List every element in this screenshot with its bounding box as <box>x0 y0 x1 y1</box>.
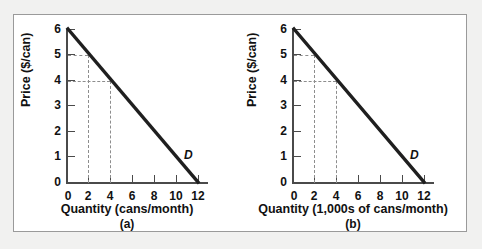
x-tick-label-2-b: 2 <box>311 190 318 202</box>
y-tick-label-6-b: 6 <box>280 23 287 35</box>
chart-panel-a: Price ($/can) 0 1 2 3 4 5 6 <box>14 15 240 231</box>
x-tick-label-0-b: 0 <box>291 190 298 202</box>
x-tick-label-8-a: 8 <box>151 190 158 202</box>
x-tick-label-10-a: 10 <box>169 190 182 202</box>
y-axis-title-a: Price ($/can) <box>20 33 33 107</box>
y-tick-label-1-a: 1 <box>54 150 61 162</box>
y-tick-label-2-a: 2 <box>54 125 61 137</box>
y-tick-label-0-a: 0 <box>54 176 61 188</box>
x-tick-label-6-a: 6 <box>129 190 136 202</box>
plot-area-a: 0 1 2 3 4 5 6 0 2 4 6 <box>66 29 208 184</box>
plot-area-b: 0 1 2 3 4 5 6 0 2 4 6 <box>292 29 434 184</box>
x-tick-label-0-a: 0 <box>65 190 72 202</box>
x-tick-label-2-a: 2 <box>85 190 92 202</box>
x-tick-label-8-b: 8 <box>377 190 384 202</box>
x-tick-label-6-b: 6 <box>355 190 362 202</box>
y-tick-label-3-a: 3 <box>54 99 61 111</box>
y-tick-label-0-b: 0 <box>280 176 287 188</box>
demand-curve-label-b: D <box>410 149 419 161</box>
chart-panel-b: Price ($/can) 0 1 2 3 4 5 6 0 <box>240 15 466 231</box>
figure-frame: Price ($/can) 0 1 2 3 4 5 6 <box>13 14 467 232</box>
x-tick-label-12-b: 12 <box>417 190 430 202</box>
y-tick-label-1-b: 1 <box>280 150 287 162</box>
y-tick-label-4-b: 4 <box>280 74 287 86</box>
x-tick-label-4-b: 4 <box>333 190 340 202</box>
panel-caption-b: (b) <box>240 218 466 230</box>
y-tick-label-5-a: 5 <box>54 48 61 60</box>
y-tick-label-4-a: 4 <box>54 74 61 86</box>
chart-panel-group: Price ($/can) 0 1 2 3 4 5 6 <box>14 15 466 231</box>
x-tick-label-4-a: 4 <box>107 190 114 202</box>
x-axis-title-a: Quantity (cans/month) <box>14 203 240 216</box>
y-tick-label-5-b: 5 <box>280 48 287 60</box>
x-tick-label-12-a: 12 <box>191 190 204 202</box>
x-axis-title-b: Quantity (1,000s of cans/month) <box>240 203 466 216</box>
demand-curve-label-a: D <box>184 149 193 161</box>
x-tick-label-10-b: 10 <box>395 190 408 202</box>
y-tick-label-3-b: 3 <box>280 99 287 111</box>
y-tick-label-2-b: 2 <box>280 125 287 137</box>
y-tick-label-6-a: 6 <box>54 23 61 35</box>
panel-caption-a: (a) <box>14 218 240 230</box>
y-axis-title-b: Price ($/can) <box>246 33 259 107</box>
